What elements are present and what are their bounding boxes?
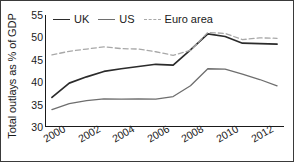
series-line-us bbox=[52, 69, 277, 110]
plot-area bbox=[45, 15, 284, 127]
series-line-uk bbox=[52, 34, 277, 98]
plot-svg bbox=[45, 15, 284, 127]
line-chart: Total outlays as % of GDP 303540455055 2… bbox=[0, 0, 294, 162]
